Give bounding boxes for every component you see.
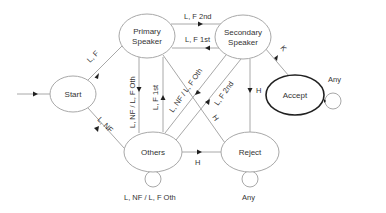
edge-others-secondary bbox=[176, 59, 241, 140]
label-others-reject: H bbox=[195, 158, 200, 167]
label-start-others: L, NF bbox=[96, 115, 116, 135]
edge-secondary-primary bbox=[172, 46, 222, 51]
svg-text:Accept: Accept bbox=[283, 91, 308, 100]
edge-others-reject bbox=[182, 150, 221, 155]
state-reject: Reject bbox=[221, 132, 279, 172]
label-secondary-reject: H bbox=[256, 86, 261, 95]
label-primary-secondary: L, F 2nd bbox=[184, 12, 212, 21]
label-secondary-primary: L, F 1st bbox=[185, 35, 211, 44]
state-accept: Accept bbox=[266, 75, 324, 115]
label-others-secondary: L, F 2nd bbox=[212, 79, 235, 107]
loop-reject bbox=[242, 170, 258, 187]
loop-others bbox=[145, 170, 161, 187]
edge-secondary-reject bbox=[248, 59, 253, 132]
edge-primary-others bbox=[137, 57, 142, 133]
edge-secondary-accept bbox=[265, 48, 289, 76]
svg-text:Primary: Primary bbox=[133, 27, 161, 36]
svg-text:Speaker: Speaker bbox=[132, 37, 162, 46]
label-accept-self: Any bbox=[328, 75, 341, 84]
label-primary-others: L, NF / L, F Oth bbox=[128, 76, 137, 128]
svg-text:Reject: Reject bbox=[239, 148, 262, 157]
svg-text:Secondary: Secondary bbox=[224, 28, 262, 37]
label-reject-self: Any bbox=[242, 193, 255, 202]
state-secondary-speaker: Secondary Speaker bbox=[215, 15, 271, 59]
label-others-primary: L, F 1st bbox=[151, 84, 160, 110]
label-others-self: L, NF / L, F Oth bbox=[124, 193, 176, 202]
edge-others-primary bbox=[161, 57, 166, 132]
label-secondary-accept: K bbox=[278, 44, 288, 54]
entry-arrow bbox=[17, 92, 50, 97]
svg-text:Others: Others bbox=[141, 148, 165, 157]
edge-primary-secondary bbox=[171, 22, 222, 27]
state-diagram: Start Primary Speaker Secondary Speaker … bbox=[0, 0, 386, 213]
svg-text:Speaker: Speaker bbox=[228, 38, 258, 47]
loop-accept bbox=[324, 93, 341, 109]
state-start: Start bbox=[50, 76, 96, 112]
svg-text:Start: Start bbox=[65, 90, 83, 99]
label-primary-reject: H bbox=[210, 113, 220, 123]
state-others: Others bbox=[124, 132, 182, 172]
state-primary-speaker: Primary Speaker bbox=[119, 14, 175, 58]
label-start-primary: L, F bbox=[85, 49, 101, 65]
